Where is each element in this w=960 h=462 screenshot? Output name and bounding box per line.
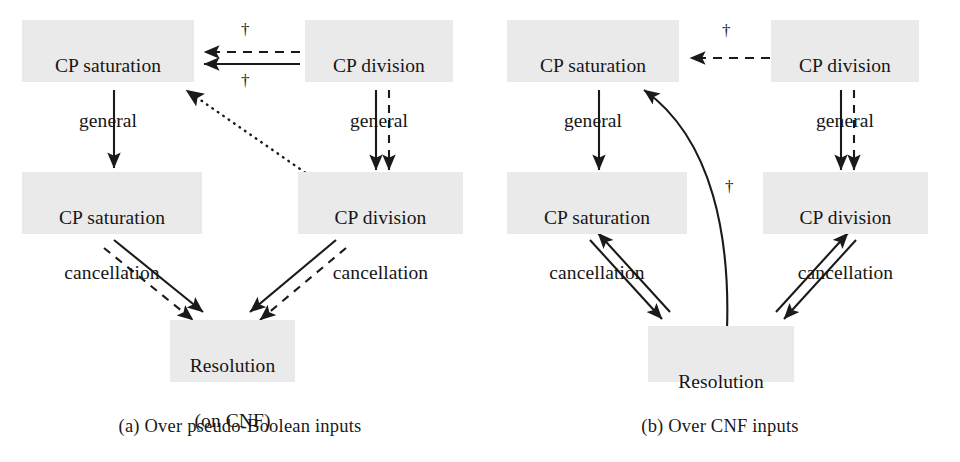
edge-division-cancellation-to-saturation-general-dotted: [186, 90, 316, 180]
node-line-1: CP division: [307, 204, 454, 232]
node-line-1: CP division: [780, 52, 910, 80]
node-line-2: cancellation: [307, 259, 454, 287]
node-cp-division-cancellation-a: CP division cancellation: [298, 172, 463, 234]
node-line-1: CP division: [314, 52, 444, 80]
node-line-2: general: [516, 107, 670, 135]
panel-pseudo-boolean: † † CP saturation general CP division ge…: [0, 0, 480, 462]
dagger-beside-curved-edge-b: †: [725, 178, 734, 195]
node-cp-division-cancellation-b: CP division cancellation: [763, 172, 928, 234]
caption-panel-b: (b) Over CNF inputs: [480, 416, 960, 437]
node-line-1: Resolution: [179, 352, 286, 380]
caption-panel-a: (a) Over pseudo-Boolean inputs: [0, 416, 480, 437]
proof-system-simulation-figure: † † CP saturation general CP division ge…: [0, 0, 960, 462]
dagger-above-horizontal-edges-a: †: [241, 21, 250, 38]
node-cp-division-general-b: CP division general: [771, 20, 919, 82]
node-cp-division-general-a: CP division general: [305, 20, 453, 82]
node-line-2: cancellation: [516, 259, 678, 287]
node-cp-saturation-general-a: CP saturation general: [22, 20, 194, 82]
node-cp-saturation-cancellation-a: CP saturation cancellation: [22, 172, 202, 234]
dagger-below-horizontal-edges-a: †: [241, 72, 250, 89]
node-line-2: general: [314, 107, 444, 135]
node-resolution-b: Resolution: [648, 326, 794, 382]
node-line-2: cancellation: [772, 259, 919, 287]
node-line-1: CP saturation: [31, 52, 185, 80]
node-line-1: Resolution: [657, 368, 785, 396]
node-cp-saturation-general-b: CP saturation general: [507, 20, 679, 82]
node-resolution-a: Resolution (on CNF): [170, 320, 295, 382]
node-line-2: cancellation: [31, 259, 193, 287]
node-line-1: CP saturation: [31, 204, 193, 232]
node-line-1: CP saturation: [516, 204, 678, 232]
panel-cnf: † † CP saturation general CP division ge…: [480, 0, 960, 462]
dagger-above-horizontal-edge-b: †: [722, 22, 731, 39]
node-line-2: general: [31, 107, 185, 135]
node-cp-saturation-cancellation-b: CP saturation cancellation: [507, 172, 687, 234]
node-line-1: CP division: [772, 204, 919, 232]
node-line-1: CP saturation: [516, 52, 670, 80]
node-line-2: general: [780, 107, 910, 135]
